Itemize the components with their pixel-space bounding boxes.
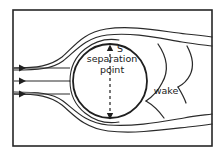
wake-label: wake xyxy=(154,85,179,96)
figure-container: S separation point wake xyxy=(0,0,223,158)
separation-point-label-line1: separation xyxy=(87,53,138,64)
separation-point-label-line2: point xyxy=(100,64,125,75)
flow-separation-diagram: S separation point wake xyxy=(0,0,223,158)
